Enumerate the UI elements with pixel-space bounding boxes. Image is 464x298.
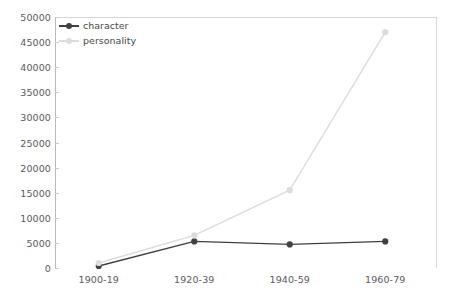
x-axis-tick-label: 1940-59 xyxy=(270,274,310,285)
y-axis-tick-label: 40000 xyxy=(20,62,51,73)
y-axis-tick-label: 5000 xyxy=(26,237,51,248)
x-axis-tick-label: 1920-39 xyxy=(174,274,214,285)
y-axis-tick-label: 15000 xyxy=(20,187,51,198)
y-axis-tick-mark xyxy=(55,218,59,219)
x-axis-tick-label: 1900-19 xyxy=(79,274,119,285)
legend-marker-icon xyxy=(66,23,72,29)
chart-legend: characterpersonality xyxy=(59,19,136,47)
y-axis-tick-label: 50000 xyxy=(20,12,51,23)
y-axis-tick-label: 20000 xyxy=(20,162,51,173)
line-chart: 0500010000150002000025000300003500040000… xyxy=(0,0,464,298)
legend-label: personality xyxy=(83,35,136,46)
legend-label: character xyxy=(83,20,129,31)
y-axis-tick-label: 45000 xyxy=(20,37,51,48)
y-axis-tick-mark xyxy=(55,17,59,18)
y-axis-tick-mark xyxy=(55,193,59,194)
legend-item-personality[interactable]: personality xyxy=(59,34,136,47)
y-axis-tick-label: 10000 xyxy=(20,212,51,223)
y-axis-tick-label: 25000 xyxy=(20,137,51,148)
y-axis-tick-mark xyxy=(55,67,59,68)
y-axis: 0500010000150002000025000300003500040000… xyxy=(0,0,51,298)
plot-area-border xyxy=(55,17,437,268)
y-axis-tick-mark xyxy=(55,268,59,269)
x-axis-tick-label: 1960-79 xyxy=(365,274,405,285)
y-axis-tick-mark xyxy=(55,117,59,118)
y-axis-tick-label: 0 xyxy=(45,263,51,274)
y-axis-tick-mark xyxy=(55,92,59,93)
legend-swatch-character xyxy=(59,20,79,31)
legend-swatch-personality xyxy=(59,35,79,46)
legend-marker-icon xyxy=(66,38,72,44)
y-axis-tick-mark xyxy=(55,168,59,169)
y-axis-tick-mark xyxy=(55,243,59,244)
y-axis-tick-label: 30000 xyxy=(20,112,51,123)
y-axis-tick-mark xyxy=(55,143,59,144)
legend-item-character[interactable]: character xyxy=(59,19,136,32)
y-axis-tick-label: 35000 xyxy=(20,87,51,98)
